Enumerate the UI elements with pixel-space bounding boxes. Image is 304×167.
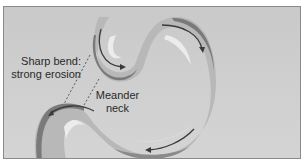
arrowhead-bottom-icon — [145, 147, 151, 153]
river-channel — [35, 17, 216, 159]
meander-neck-label-line2: neck — [90, 102, 145, 115]
arrowhead-upper-icon — [120, 64, 126, 70]
meander-river-illustration — [4, 7, 301, 159]
sharp-bend-label-line2: strong erosion — [6, 68, 81, 81]
inner-bank-deposit-right — [164, 35, 191, 65]
meander-neck-label-line1: Meander — [90, 89, 145, 102]
sharp-bend-label: Sharp bend: strong erosion — [6, 55, 81, 81]
meander-neck-label: Meander neck — [90, 89, 145, 115]
sharp-bend-label-line1: Sharp bend: — [6, 55, 81, 68]
diagram-frame: Sharp bend: strong erosion Meander neck — [3, 6, 301, 159]
inner-bank-deposit-upper — [108, 35, 122, 58]
